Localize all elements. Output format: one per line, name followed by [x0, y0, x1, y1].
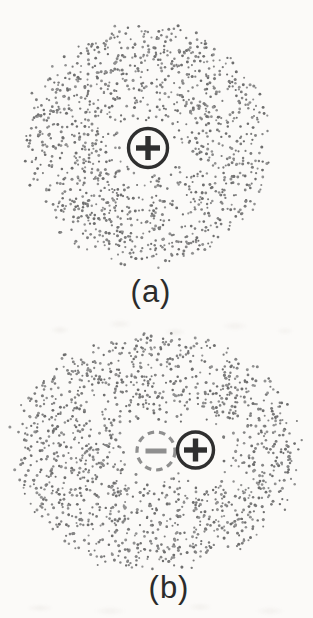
nucleus-plus-symbol: [129, 129, 168, 168]
textbook-figure-page: (a) (b): [0, 0, 313, 618]
figure-b-label: (b): [149, 572, 190, 603]
atom-polarization-figure: [0, 0, 313, 618]
figure-a-label: (a): [131, 276, 172, 307]
nucleus-plus-symbol: [178, 432, 214, 468]
electron-cloud-center-minus-symbol: [137, 432, 175, 470]
